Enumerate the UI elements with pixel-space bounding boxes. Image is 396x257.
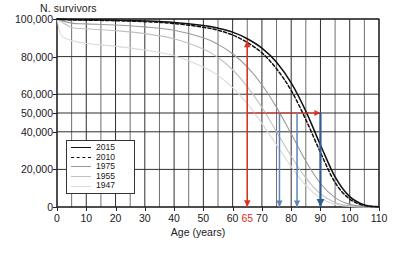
x-tick-mark [86, 207, 87, 211]
y-tick-mark [53, 132, 57, 133]
x-tick-label: 60 [227, 212, 239, 224]
x-tick-mark [291, 207, 292, 211]
legend-label: 1947 [96, 181, 115, 191]
plot-area: 020,00040,00050,00060,00080,000100,000 0… [57, 19, 379, 207]
x-tick-mark [262, 207, 263, 211]
x-tick-label: 0 [54, 212, 60, 224]
legend: 20152010197519551947 [66, 140, 135, 194]
x-tick-label: 50 [198, 212, 210, 224]
y-tick-mark [53, 113, 57, 114]
x-tick-mark [57, 207, 58, 211]
x-tick-label: 20 [110, 212, 122, 224]
x-tick-mark [350, 207, 351, 211]
y-tick-label: 60,000 [21, 88, 53, 100]
x-tick-mark [320, 207, 321, 211]
y-tick-label: 50,000 [21, 107, 53, 119]
x-tick-label: 70 [256, 212, 268, 224]
x-tick-mark [203, 207, 204, 211]
x-tick-label: 100 [341, 212, 359, 224]
x-tick-label: 40 [168, 212, 180, 224]
y-tick-label: 20,000 [21, 163, 53, 175]
x-tick-label: 30 [139, 212, 151, 224]
legend-swatch-2010 [70, 153, 92, 162]
x-tick-label: 90 [315, 212, 327, 224]
x-tick-mark [145, 207, 146, 211]
y-tick-mark [53, 94, 57, 95]
x-tick-mark [174, 207, 175, 211]
legend-item-1947[interactable]: 1947 [70, 181, 131, 191]
legend-swatch-1955 [70, 172, 92, 181]
y-tick-label: 80,000 [21, 51, 53, 63]
y-tick-label: 100,000 [15, 13, 53, 25]
x-tick-label: 10 [80, 212, 92, 224]
figure: N. survivors 020,00040,00050,00060,00080… [0, 0, 396, 257]
legend-swatch-2015 [70, 143, 92, 152]
x-tick-mark [233, 207, 234, 211]
y-tick-label: 40,000 [21, 126, 53, 138]
y-tick-mark [53, 19, 57, 20]
x-tick-label-highlighted: 65 [241, 212, 253, 224]
x-axis-title: Age (years) [0, 226, 396, 238]
legend-swatch-1947 [70, 182, 92, 191]
plot-inner: 020,00040,00050,00060,00080,000100,000 0… [57, 19, 379, 207]
y-tick-mark [53, 57, 57, 58]
y-tick-mark [53, 169, 57, 170]
x-tick-mark [379, 207, 380, 211]
x-tick-label: 80 [285, 212, 297, 224]
x-tick-label: 110 [371, 212, 388, 224]
x-tick-mark [116, 207, 117, 211]
legend-swatch-1975 [70, 162, 92, 171]
